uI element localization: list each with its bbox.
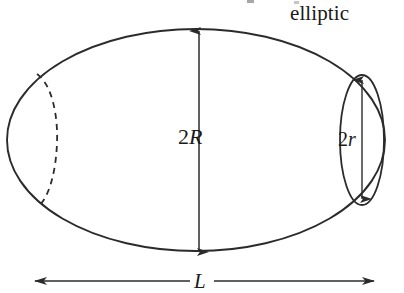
dimension-label-2r-variable: r bbox=[348, 128, 356, 150]
shape-name-label: elliptic bbox=[290, 3, 349, 24]
dimension-label-L: L bbox=[194, 271, 206, 292]
dimension-label-2R-variable: R bbox=[189, 124, 202, 149]
dimension-label-2r-prefix: 2 bbox=[338, 128, 348, 150]
left-end-cap-hidden-arc bbox=[37, 74, 57, 205]
dimension-label-2r: 2r bbox=[338, 129, 356, 149]
dimension-label-2R: 2R bbox=[178, 126, 202, 148]
figure-canvas: elliptic 2R 2r L bbox=[0, 0, 404, 293]
dimension-label-2R-prefix: 2 bbox=[178, 124, 189, 149]
